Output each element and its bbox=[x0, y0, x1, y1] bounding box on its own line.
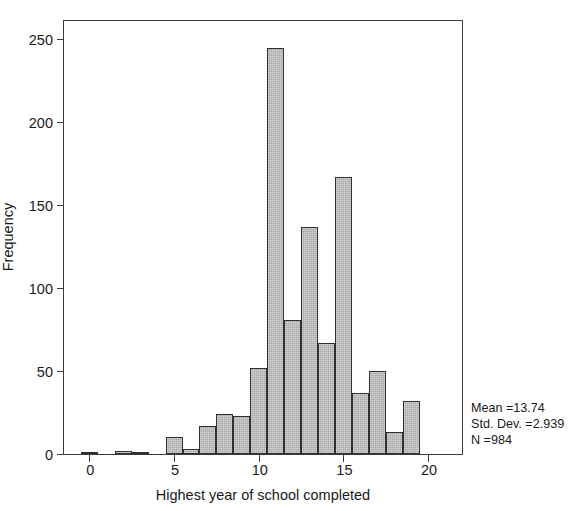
x-axis-tick-label: 20 bbox=[421, 463, 437, 478]
histogram-bar bbox=[301, 227, 318, 454]
x-axis-tick: 0 bbox=[89, 454, 90, 462]
plot-frame: 050100150200250 05101520 bbox=[63, 20, 463, 455]
x-axis-tick: 5 bbox=[174, 454, 175, 462]
histogram-bar bbox=[335, 177, 352, 454]
y-axis-tick-label: 250 bbox=[29, 33, 57, 48]
histogram-chart: Frequency 050100150200250 05101520 Highe… bbox=[0, 0, 587, 511]
y-axis-tick: 100 bbox=[57, 288, 64, 289]
histogram-bar bbox=[318, 343, 335, 454]
histogram-bar bbox=[267, 48, 284, 454]
histogram-bar bbox=[216, 414, 233, 454]
histogram-bar bbox=[403, 401, 420, 454]
y-axis-tick-label: 100 bbox=[29, 282, 57, 297]
histogram-bar bbox=[386, 432, 403, 454]
x-axis-tick-label: 5 bbox=[171, 463, 179, 478]
y-axis-tick-label: 50 bbox=[37, 365, 57, 380]
histogram-bar bbox=[166, 437, 183, 454]
histogram-bar bbox=[132, 452, 149, 454]
histogram-bar bbox=[369, 371, 386, 454]
histogram-bar bbox=[233, 416, 250, 454]
y-axis-tick-label: 200 bbox=[29, 116, 57, 131]
statistics-annotation: Mean =13.74 Std. Dev. =2.939 N =984 bbox=[471, 400, 564, 448]
histogram-bar bbox=[284, 320, 301, 454]
y-axis-tick-label: 0 bbox=[45, 448, 57, 463]
histogram-bar bbox=[250, 368, 267, 454]
y-axis-label: Frequency bbox=[0, 203, 16, 272]
histogram-bar bbox=[199, 426, 216, 454]
y-axis-tick: 50 bbox=[57, 371, 64, 372]
x-axis-tick-label: 0 bbox=[86, 463, 94, 478]
y-axis-tick: 200 bbox=[57, 122, 64, 123]
y-axis-tick-label: 150 bbox=[29, 199, 57, 214]
y-axis-tick: 0 bbox=[57, 454, 64, 455]
plot-area bbox=[64, 21, 462, 454]
x-axis-tick: 20 bbox=[428, 454, 429, 462]
x-axis-tick: 15 bbox=[343, 454, 344, 462]
x-axis-tick: 10 bbox=[259, 454, 260, 462]
x-axis-label: Highest year of school completed bbox=[63, 487, 463, 503]
histogram-bar bbox=[115, 451, 132, 454]
mean-label: Mean =13.74 bbox=[471, 400, 564, 416]
x-axis-tick-label: 10 bbox=[252, 463, 268, 478]
y-axis-tick: 250 bbox=[57, 39, 64, 40]
stddev-label: Std. Dev. =2.939 bbox=[471, 416, 564, 432]
sample-size-label: N =984 bbox=[471, 432, 564, 448]
histogram-bar bbox=[352, 393, 369, 454]
x-axis-tick-label: 15 bbox=[336, 463, 352, 478]
histogram-bar bbox=[183, 449, 200, 454]
y-axis-tick: 150 bbox=[57, 205, 64, 206]
